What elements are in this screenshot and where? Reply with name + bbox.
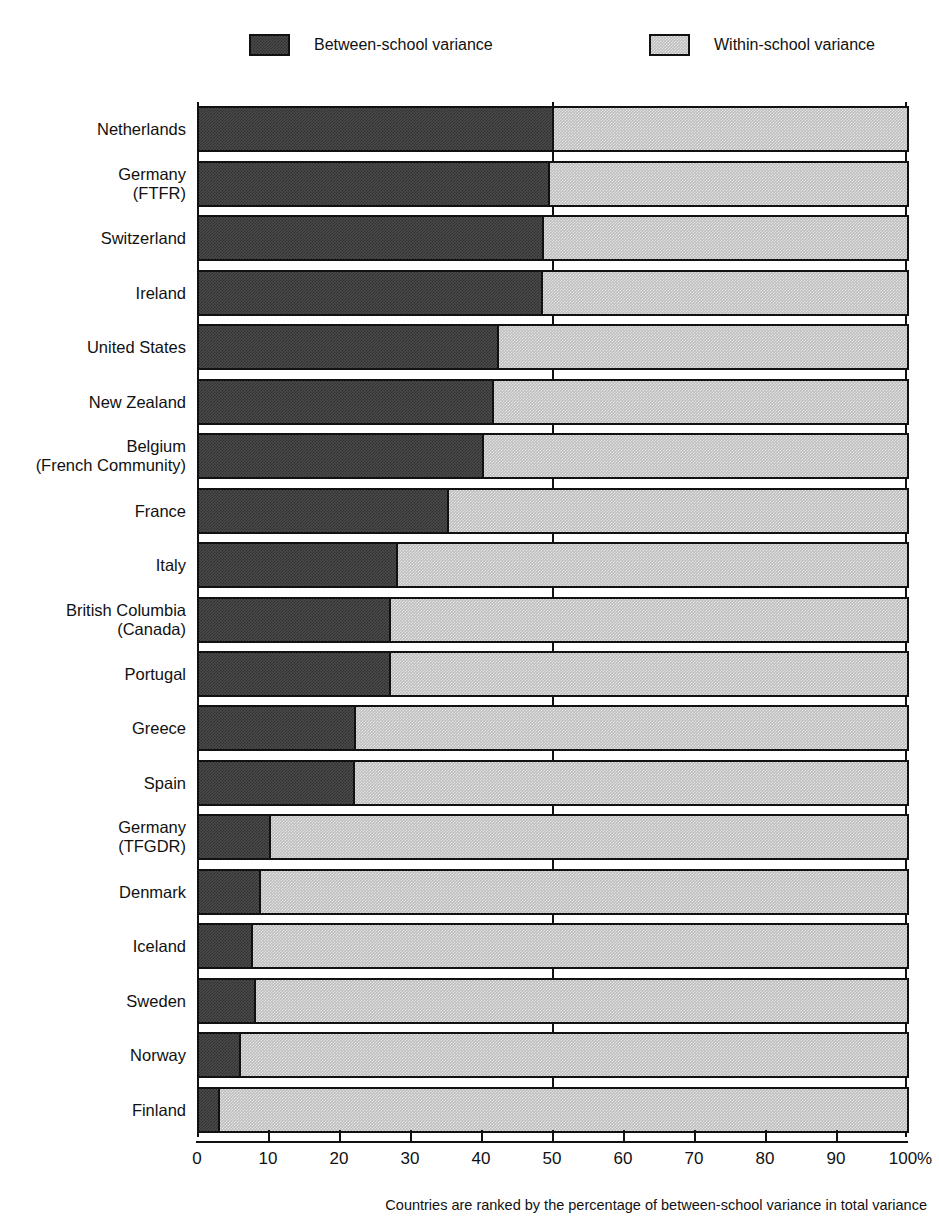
bar-row — [197, 324, 907, 370]
x-axis-tick — [481, 1130, 483, 1141]
bar-segment-within-school — [354, 705, 909, 751]
category-label: Greece — [1, 719, 186, 738]
x-axis-tick-label: 20 — [330, 1149, 349, 1169]
category-label: United States — [1, 338, 186, 357]
bar-segment-within-school — [251, 923, 909, 969]
bar-segment-within-school — [269, 814, 909, 860]
x-axis-tick — [410, 1130, 412, 1141]
bar-row — [197, 923, 907, 969]
x-axis-tick — [339, 1130, 341, 1141]
bar-row — [197, 215, 907, 261]
chart-footnote: Countries are ranked by the percentage o… — [385, 1197, 927, 1213]
x-axis-tick — [552, 1130, 554, 1141]
bar-segment-within-school — [396, 542, 909, 588]
bar-segment-between-school — [197, 433, 484, 479]
x-axis-tick-label: 0 — [192, 1149, 201, 1169]
bar-segment-between-school — [197, 651, 391, 697]
category-axis-labels: NetherlandsGermany (FTFR)SwitzerlandIrel… — [0, 102, 186, 1137]
bar-segment-within-school — [353, 760, 909, 806]
bar-segment-within-school — [389, 597, 909, 643]
bar-segment-between-school — [197, 270, 543, 316]
bar-segment-between-school — [197, 814, 271, 860]
bar-row — [197, 161, 907, 207]
bar-segment-between-school — [197, 1032, 241, 1078]
stacked-bar-plot-area — [197, 102, 907, 1137]
legend-item-within-school: Within-school variance — [649, 34, 875, 56]
category-label: Norway — [1, 1046, 186, 1065]
bar-row — [197, 488, 907, 534]
bar-row — [197, 379, 907, 425]
x-axis-tick-label: 70 — [685, 1149, 704, 1169]
bar-segment-within-school — [497, 324, 909, 370]
bar-row — [197, 1087, 907, 1133]
bar-row — [197, 760, 907, 806]
category-label: Germany (FTFR) — [1, 165, 186, 203]
x-axis-tick-label: 50 — [543, 1149, 562, 1169]
category-label: British Columbia (Canada) — [1, 601, 186, 639]
category-label: Switzerland — [1, 229, 186, 248]
x-axis-tick — [268, 1130, 270, 1141]
category-label: New Zealand — [1, 393, 186, 412]
category-label: Ireland — [1, 284, 186, 303]
bar-segment-between-school — [197, 869, 261, 915]
bar-segment-between-school — [197, 760, 355, 806]
bar-segment-within-school — [542, 215, 909, 261]
category-label: Iceland — [1, 937, 186, 956]
bar-row — [197, 542, 907, 588]
x-axis-tick-label: 40 — [472, 1149, 491, 1169]
x-axis-tick-label: 100% — [889, 1149, 932, 1169]
legend-label-within-school: Within-school variance — [714, 36, 875, 54]
bar-segment-between-school — [197, 542, 398, 588]
bar-row — [197, 978, 907, 1024]
x-axis-tick — [765, 1130, 767, 1141]
bar-segment-within-school — [254, 978, 909, 1024]
x-axis-tick — [836, 1130, 838, 1141]
x-axis-tick — [623, 1130, 625, 1141]
x-axis-tick-label: 10 — [259, 1149, 278, 1169]
bar-segment-within-school — [482, 433, 909, 479]
category-label: Belgium (French Community) — [1, 437, 186, 475]
category-label: Italy — [1, 556, 186, 575]
bar-segment-between-school — [197, 324, 499, 370]
bar-segment-between-school — [197, 215, 544, 261]
bar-row — [197, 597, 907, 643]
x-axis: 0102030405060708090100% — [197, 1141, 907, 1142]
bar-row — [197, 433, 907, 479]
legend-item-between-school: Between-school variance — [249, 34, 493, 56]
bar-segment-within-school — [447, 488, 909, 534]
bar-row — [197, 869, 907, 915]
x-axis-tick-label: 30 — [401, 1149, 420, 1169]
category-label: Spain — [1, 774, 186, 793]
bar-segment-between-school — [197, 923, 253, 969]
bar-row — [197, 651, 907, 697]
category-label: France — [1, 502, 186, 521]
bar-row — [197, 1032, 907, 1078]
category-label: Portugal — [1, 665, 186, 684]
bar-segment-between-school — [197, 705, 356, 751]
bar-segment-between-school — [197, 1087, 220, 1133]
bar-row — [197, 106, 907, 152]
bar-segment-between-school — [197, 161, 550, 207]
bar-segment-within-school — [389, 651, 909, 697]
dark-hatch-swatch-icon — [249, 34, 290, 56]
bar-segment-within-school — [259, 869, 909, 915]
x-axis-tick-label: 90 — [827, 1149, 846, 1169]
category-label: Finland — [1, 1101, 186, 1120]
bar-segment-within-school — [492, 379, 909, 425]
x-axis-tick — [694, 1130, 696, 1141]
x-axis-tick-label: 80 — [756, 1149, 775, 1169]
legend-label-between-school: Between-school variance — [314, 36, 493, 54]
category-label: Netherlands — [1, 120, 186, 139]
bar-segment-between-school — [197, 978, 256, 1024]
bar-row — [197, 270, 907, 316]
category-label: Sweden — [1, 992, 186, 1011]
light-hatch-swatch-icon — [649, 34, 690, 56]
bar-segment-within-school — [239, 1032, 909, 1078]
category-label: Germany (TFGDR) — [1, 818, 186, 856]
bar-segment-between-school — [197, 379, 494, 425]
bar-segment-between-school — [197, 106, 554, 152]
bar-segment-between-school — [197, 597, 391, 643]
bar-segment-between-school — [197, 488, 449, 534]
chart-legend: Between-school variance Within-school va… — [0, 34, 939, 64]
category-label: Denmark — [1, 883, 186, 902]
